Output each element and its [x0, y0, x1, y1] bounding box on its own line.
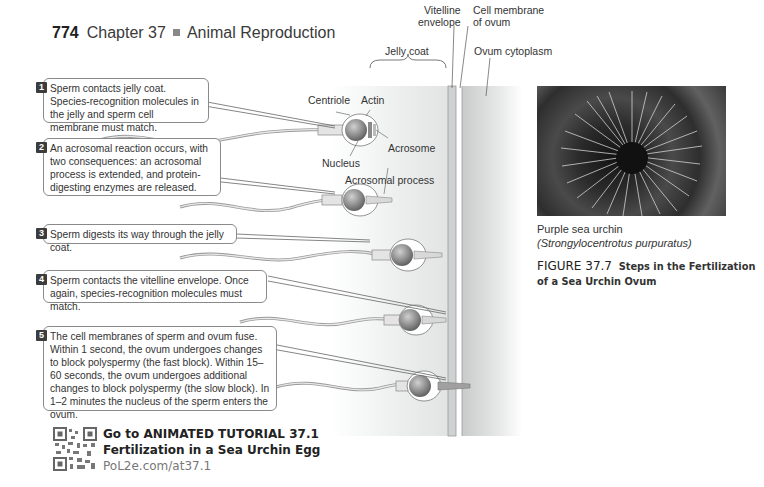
- photo-caption: Purple sea urchin (Strongylocentrotus pu…: [537, 222, 692, 250]
- label-ovum-cytoplasm: Ovum cytoplasm: [474, 45, 552, 57]
- label-acrosomal-process: Acrosomal process: [345, 174, 434, 186]
- step-2-box: 2 An acrosomal reaction occurs, with two…: [43, 138, 221, 196]
- label-vitelline-line2: envelope: [418, 16, 461, 28]
- step-4-text: Sperm contacts the vitelline envelope. O…: [50, 275, 249, 312]
- label-cell-membrane-line1: Cell membrane: [473, 4, 544, 16]
- label-cell-membrane-line2: of ovum: [473, 16, 544, 28]
- caption-common-name: Purple sea urchin: [537, 222, 692, 236]
- urchin-spines-icon: [537, 86, 726, 216]
- tutorial-title: Fertilization in a Sea Urchin Egg: [103, 442, 320, 458]
- sea-urchin-photo: [537, 86, 726, 216]
- step-1-box: 1 Sperm contacts jelly coat. Species-rec…: [43, 78, 209, 123]
- step-3-text: Sperm digests its way through the jelly …: [50, 229, 224, 253]
- step-1-number: 1: [36, 82, 47, 93]
- label-jelly-coat: Jelly coat: [385, 45, 429, 57]
- tutorial-heading: Go to ANIMATED TUTORIAL 37.1: [103, 426, 320, 442]
- qr-code-icon: [53, 427, 97, 471]
- figure-number: FIGURE 37.7: [537, 259, 612, 273]
- step-4-box: 4 Sperm contacts the vitelline envelope.…: [43, 270, 267, 303]
- step-2-text: An acrosomal reaction occurs, with two c…: [50, 143, 208, 193]
- step-3-box: 3 Sperm digests its way through the jell…: [43, 224, 237, 244]
- step-5-text: The cell membranes of sperm and ovum fus…: [50, 331, 269, 420]
- step-5-number: 5: [36, 330, 47, 341]
- caption-scientific-name: (Strongylocentrotus purpuratus): [537, 236, 692, 250]
- separator-square-icon: [173, 29, 180, 36]
- step-5-box: 5 The cell membranes of sperm and ovum f…: [43, 326, 277, 411]
- label-acrosome: Acrosome: [388, 142, 435, 154]
- page-number: 774: [52, 24, 79, 41]
- step-3-number: 3: [36, 228, 47, 239]
- label-cell-membrane: Cell membrane of ovum: [473, 4, 544, 28]
- step-1-text: Sperm contacts jelly coat. Species-recog…: [50, 83, 199, 133]
- label-vitelline-line1: Vitelline: [418, 4, 461, 16]
- page-header: 774Chapter 37Animal Reproduction: [52, 24, 335, 42]
- sperm-5: [276, 371, 470, 401]
- chapter-label: Chapter 37: [87, 24, 166, 41]
- label-vitelline-envelope: Vitelline envelope: [418, 4, 461, 28]
- animated-tutorial-block: Go to ANIMATED TUTORIAL 37.1 Fertilizati…: [103, 426, 320, 474]
- caption-scientific-text: (Strongylocentrotus purpuratus): [537, 237, 692, 249]
- label-actin: Actin: [361, 94, 384, 106]
- label-centriole: Centriole: [308, 94, 350, 106]
- tutorial-link[interactable]: PoL2e.com/at37.1: [103, 458, 320, 474]
- chapter-title: Animal Reproduction: [187, 24, 336, 41]
- label-nucleus: Nucleus: [322, 157, 360, 169]
- figure-caption: FIGURE 37.7 Steps in the Fertilization o…: [537, 259, 757, 289]
- step-4-number: 4: [36, 274, 47, 285]
- step-2-number: 2: [36, 142, 47, 153]
